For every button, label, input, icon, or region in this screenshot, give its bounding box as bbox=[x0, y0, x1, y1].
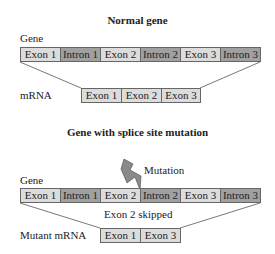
gene-label: Gene bbox=[20, 174, 43, 186]
intron-segment: Intron 3 bbox=[221, 189, 260, 202]
exon-segment: Exon 1 bbox=[101, 229, 141, 242]
exon-segment: Exon 2 bbox=[101, 189, 141, 202]
exon-segment: Exon 3 bbox=[162, 89, 200, 102]
mutant-gene-bar: Exon 1 Intron 1 Exon 2 Intron 2 Exon 3 I… bbox=[20, 188, 261, 203]
gene-label: Gene bbox=[20, 32, 43, 44]
exon-segment: Exon 3 bbox=[181, 189, 221, 202]
intron-segment: Intron 1 bbox=[61, 189, 101, 202]
lightning-bolt-icon bbox=[121, 159, 141, 190]
mutant-gene-title: Gene with splice site mutation bbox=[0, 126, 275, 138]
exon-segment: Exon 1 bbox=[82, 89, 122, 102]
mutant-mrna-bar: Exon 1 Exon 3 bbox=[100, 228, 181, 243]
exon-segment: Exon 2 bbox=[122, 89, 162, 102]
exon-segment: Exon 2 bbox=[101, 48, 141, 61]
intron-segment: Intron 3 bbox=[221, 48, 260, 61]
exon-segment: Exon 1 bbox=[21, 189, 61, 202]
mutation-label: Mutation bbox=[144, 164, 184, 176]
intron-segment: Intron 2 bbox=[141, 48, 181, 61]
normal-gene-bar: Exon 1 Intron 1 Exon 2 Intron 2 Exon 3 I… bbox=[20, 47, 261, 62]
exon-segment: Exon 1 bbox=[21, 48, 61, 61]
normal-mrna-bar: Exon 1 Exon 2 Exon 3 bbox=[81, 88, 201, 103]
intron-segment: Intron 2 bbox=[141, 189, 181, 202]
mrna-label: mRNA bbox=[20, 89, 52, 101]
exon-segment: Exon 3 bbox=[181, 48, 221, 61]
mutant-mrna-label: Mutant mRNA bbox=[20, 229, 86, 241]
intron-segment: Intron 1 bbox=[61, 48, 101, 61]
exon-segment: Exon 3 bbox=[141, 229, 180, 242]
exon-skipped-label: Exon 2 skipped bbox=[104, 208, 172, 220]
normal-gene-title: Normal gene bbox=[0, 14, 275, 26]
